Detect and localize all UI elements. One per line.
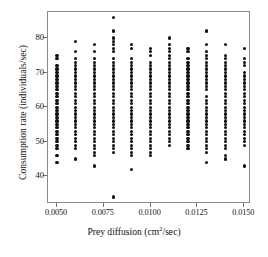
- data-point: [55, 99, 58, 102]
- data-point: [243, 78, 246, 81]
- data-point: [205, 147, 208, 150]
- data-point: [205, 88, 208, 91]
- data-points-layer: [48, 12, 249, 202]
- data-point: [112, 74, 115, 77]
- x-tick-mark: [243, 203, 244, 207]
- data-point: [112, 40, 115, 43]
- data-point: [205, 119, 208, 122]
- data-point: [149, 137, 152, 140]
- data-point: [205, 151, 208, 154]
- data-point: [186, 119, 189, 122]
- data-point: [186, 123, 189, 126]
- data-point: [149, 147, 152, 150]
- data-point: [55, 57, 58, 60]
- data-point: [112, 61, 115, 64]
- data-point: [112, 95, 115, 98]
- data-point: [205, 106, 208, 109]
- x-axis-title: Prey diffusion (cm2/sec): [0, 226, 268, 237]
- data-point: [93, 50, 96, 53]
- scatter-plot-figure: 0.00500.00750.01000.01250.0150 405060708…: [0, 0, 268, 257]
- data-point: [224, 92, 227, 95]
- data-point: [112, 102, 115, 105]
- data-point: [205, 126, 208, 129]
- data-point: [130, 78, 133, 81]
- data-point: [112, 29, 115, 32]
- data-point: [168, 57, 171, 60]
- data-point: [243, 81, 246, 84]
- data-point: [55, 137, 58, 140]
- data-point: [112, 99, 115, 102]
- data-point: [55, 64, 58, 67]
- data-point: [224, 144, 227, 147]
- data-point: [93, 81, 96, 84]
- data-point: [186, 81, 189, 84]
- data-point: [130, 106, 133, 109]
- data-point: [243, 57, 246, 60]
- data-point: [74, 157, 77, 160]
- data-point: [224, 130, 227, 133]
- data-point: [186, 47, 189, 50]
- data-point: [243, 74, 246, 77]
- data-point: [55, 85, 58, 88]
- data-point: [149, 61, 152, 64]
- data-point: [130, 147, 133, 150]
- data-point: [168, 36, 171, 39]
- data-point: [186, 109, 189, 112]
- data-point: [149, 133, 152, 136]
- data-point: [168, 102, 171, 105]
- data-point: [55, 154, 58, 157]
- data-point: [224, 95, 227, 98]
- data-point: [93, 140, 96, 143]
- x-tick-mark: [103, 203, 104, 207]
- data-point: [130, 47, 133, 50]
- x-tick-label: 0.0050: [45, 208, 67, 217]
- data-point: [93, 144, 96, 147]
- data-point: [149, 67, 152, 70]
- data-point: [93, 102, 96, 105]
- data-point: [186, 102, 189, 105]
- data-point: [168, 43, 171, 46]
- data-point: [205, 109, 208, 112]
- data-point: [74, 95, 77, 98]
- data-point: [112, 43, 115, 46]
- data-point: [205, 161, 208, 164]
- data-point: [149, 95, 152, 98]
- data-point: [55, 109, 58, 112]
- data-point: [149, 123, 152, 126]
- data-point: [205, 74, 208, 77]
- data-point: [130, 151, 133, 154]
- data-point: [112, 123, 115, 126]
- x-tick-mark: [150, 203, 151, 207]
- data-point: [112, 126, 115, 129]
- data-point: [186, 130, 189, 133]
- data-point: [205, 50, 208, 53]
- data-point: [149, 54, 152, 57]
- data-point: [130, 81, 133, 84]
- data-point: [149, 154, 152, 157]
- data-point: [168, 140, 171, 143]
- data-point: [93, 92, 96, 95]
- data-point: [112, 119, 115, 122]
- data-point: [112, 85, 115, 88]
- data-point: [205, 78, 208, 81]
- data-point: [205, 43, 208, 46]
- data-point: [186, 112, 189, 115]
- data-point: [74, 126, 77, 129]
- data-point: [74, 116, 77, 119]
- data-point: [149, 99, 152, 102]
- data-point: [149, 74, 152, 77]
- data-point: [149, 78, 152, 81]
- data-point: [186, 64, 189, 67]
- data-point: [224, 57, 227, 60]
- data-point: [243, 116, 246, 119]
- data-point: [224, 99, 227, 102]
- data-point: [149, 119, 152, 122]
- data-point: [93, 147, 96, 150]
- data-point: [130, 112, 133, 115]
- data-point: [224, 74, 227, 77]
- data-point: [168, 144, 171, 147]
- data-point: [93, 130, 96, 133]
- data-point: [130, 92, 133, 95]
- data-point: [205, 67, 208, 70]
- data-point: [168, 112, 171, 115]
